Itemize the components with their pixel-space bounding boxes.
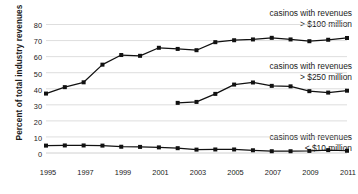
data-point-2-2002 bbox=[176, 146, 180, 150]
data-point-0-1996 bbox=[63, 85, 67, 89]
data-point-2-2005 bbox=[232, 147, 236, 151]
series-1 bbox=[176, 80, 349, 104]
data-point-2-2011 bbox=[345, 149, 349, 153]
data-point-0-2007 bbox=[270, 36, 274, 40]
data-point-2-1999 bbox=[119, 145, 123, 149]
data-point-0-1997 bbox=[82, 80, 86, 84]
data-point-2-2000 bbox=[138, 145, 142, 149]
data-point-0-2006 bbox=[251, 37, 255, 41]
data-point-2-2006 bbox=[251, 148, 255, 152]
data-point-0-2001 bbox=[157, 46, 161, 50]
data-point-0-2003 bbox=[195, 48, 199, 52]
data-point-0-2008 bbox=[289, 37, 293, 41]
data-point-0-1999 bbox=[119, 53, 123, 57]
data-point-2-2008 bbox=[289, 149, 293, 153]
data-point-1-2010 bbox=[326, 91, 330, 95]
data-point-0-2011 bbox=[345, 36, 349, 40]
data-point-2-1996 bbox=[63, 143, 67, 147]
series-line-1 bbox=[178, 82, 347, 102]
data-point-1-2011 bbox=[345, 89, 349, 93]
data-point-1-2005 bbox=[232, 83, 236, 87]
plot-area bbox=[0, 0, 358, 194]
data-point-2-1997 bbox=[82, 143, 86, 147]
series-2 bbox=[44, 143, 349, 153]
series-group bbox=[44, 36, 349, 153]
data-point-0-2005 bbox=[232, 38, 236, 42]
data-point-2-2010 bbox=[326, 148, 330, 152]
data-point-0-2000 bbox=[138, 54, 142, 58]
data-point-1-2002 bbox=[176, 101, 180, 105]
chart-container: Percent of total industry revenues 80 70… bbox=[0, 0, 358, 194]
data-point-2-2009 bbox=[307, 149, 311, 153]
series-0 bbox=[44, 36, 349, 96]
data-point-2-1995 bbox=[44, 144, 48, 148]
data-point-2-2004 bbox=[213, 147, 217, 151]
data-point-0-1995 bbox=[44, 92, 48, 96]
data-point-1-2006 bbox=[251, 80, 255, 84]
data-point-2-2007 bbox=[270, 149, 274, 153]
data-point-1-2008 bbox=[289, 84, 293, 88]
data-point-1-2009 bbox=[307, 89, 311, 93]
data-point-1-2007 bbox=[270, 84, 274, 88]
data-point-0-2009 bbox=[307, 39, 311, 43]
data-point-1-2003 bbox=[195, 100, 199, 104]
data-point-1-2004 bbox=[213, 92, 217, 96]
series-line-0 bbox=[46, 38, 347, 94]
data-point-2-2003 bbox=[195, 148, 199, 152]
data-point-0-1998 bbox=[100, 63, 104, 67]
data-point-0-2002 bbox=[176, 47, 180, 51]
data-point-2-2001 bbox=[157, 145, 161, 149]
data-point-0-2010 bbox=[326, 38, 330, 42]
data-point-0-2004 bbox=[213, 40, 217, 44]
data-point-2-1998 bbox=[100, 144, 104, 148]
